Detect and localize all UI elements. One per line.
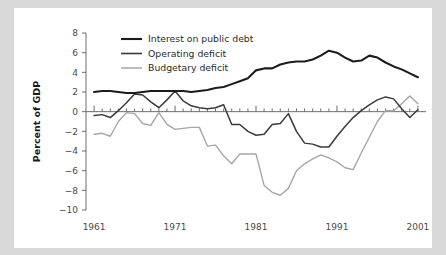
legend-label-interest-on-public-debt: Interest on public debt xyxy=(148,33,254,44)
x-axis-tick-labels: 19611971198119912001 xyxy=(83,222,430,232)
x-axis-tick-label: 1991 xyxy=(325,222,348,232)
chart-figure: 86420−2−4−6−8−10 19611971198119912001 Pe… xyxy=(14,8,432,248)
y-axis-tick-label: −4 xyxy=(65,146,79,156)
series-line-interest-on-public-debt xyxy=(94,51,418,93)
chart-legend: Interest on public debt Operating defici… xyxy=(121,33,254,73)
legend-label-operating-deficit: Operating deficit xyxy=(148,48,227,59)
y-axis-tick-label: −6 xyxy=(65,166,79,176)
y-axis-tick-labels: 86420−2−4−6−8−10 xyxy=(59,28,78,215)
line-chart-svg: 86420−2−4−6−8−10 19611971198119912001 Pe… xyxy=(14,8,432,248)
y-axis-tick-label: 6 xyxy=(72,48,78,58)
y-axis-tick-label: 0 xyxy=(72,107,78,117)
x-axis-tick-label: 1961 xyxy=(83,222,106,232)
y-axis-tick-label: 4 xyxy=(72,68,78,78)
x-axis-tick-label: 2001 xyxy=(406,222,429,232)
y-axis-tick-label: −2 xyxy=(65,127,78,137)
y-axis-tick-label: 8 xyxy=(72,28,78,38)
chart-plot-area: 86420−2−4−6−8−10 19611971198119912001 Pe… xyxy=(14,8,432,248)
y-axis-tick-label: −8 xyxy=(65,186,79,196)
y-axis-title: Percent of GDP xyxy=(31,81,42,162)
x-axis-ticks xyxy=(94,106,418,112)
legend-label-budgetary-deficit: Budgetary deficit xyxy=(148,62,229,73)
y-axis-ticks xyxy=(82,33,86,210)
y-axis-tick-label: −10 xyxy=(59,205,78,215)
y-axis-tick-label: 2 xyxy=(72,87,78,97)
x-axis-tick-label: 1971 xyxy=(164,222,187,232)
x-axis-tick-label: 1981 xyxy=(245,222,268,232)
